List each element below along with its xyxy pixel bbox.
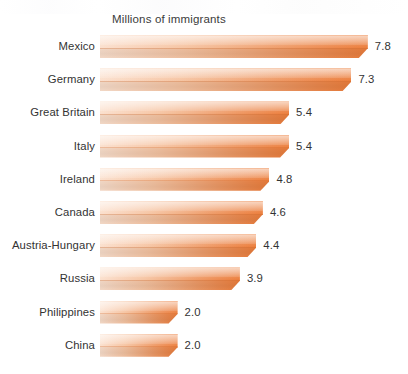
bar-face <box>100 168 269 191</box>
scan-bleed-through <box>0 0 408 14</box>
bar <box>100 201 263 224</box>
category-label: Italy <box>0 135 95 158</box>
bar <box>100 234 256 257</box>
category-label: China <box>0 334 95 357</box>
bar-row: Ireland4.8 <box>0 168 408 191</box>
category-label: Canada <box>0 201 95 224</box>
plot-area: Mexico7.8Germany7.3Great Britain5.4Italy… <box>0 33 408 368</box>
bar <box>100 101 289 124</box>
bar-row: China2.0 <box>0 334 408 357</box>
bar-row: Austria-Hungary4.4 <box>0 234 408 257</box>
chart-title: Millions of immigrants <box>112 13 226 25</box>
category-label: Austria-Hungary <box>0 234 95 257</box>
bar-face <box>100 201 263 224</box>
value-label: 7.8 <box>375 35 391 58</box>
bar-face <box>100 68 351 91</box>
value-label: 4.8 <box>276 168 292 191</box>
bar-row: Philippines2.0 <box>0 301 408 324</box>
value-label: 5.4 <box>296 135 312 158</box>
category-label: Germany <box>0 68 95 91</box>
bar <box>100 68 351 91</box>
bar-face <box>100 135 289 158</box>
bar-face <box>100 234 256 257</box>
bar <box>100 35 368 58</box>
bar <box>100 168 269 191</box>
bar-row: Mexico7.8 <box>0 35 408 58</box>
bar-face <box>100 334 178 357</box>
value-label: 2.0 <box>185 334 201 357</box>
value-label: 5.4 <box>296 101 312 124</box>
category-label: Ireland <box>0 168 95 191</box>
bar-row: Great Britain5.4 <box>0 101 408 124</box>
bar-row: Germany7.3 <box>0 68 408 91</box>
value-label: 3.9 <box>247 267 263 290</box>
category-label: Russia <box>0 267 95 290</box>
bar <box>100 334 178 357</box>
bar <box>100 301 178 324</box>
bar <box>100 135 289 158</box>
bar-row: Russia3.9 <box>0 267 408 290</box>
category-label: Philippines <box>0 301 95 324</box>
bar <box>100 267 240 290</box>
bar-face <box>100 35 368 58</box>
value-label: 2.0 <box>185 301 201 324</box>
immigrants-bar-chart: Millions of immigrants Mexico7.8Germany7… <box>0 0 408 374</box>
bar-face <box>100 301 178 324</box>
value-label: 4.4 <box>263 234 279 257</box>
category-label: Great Britain <box>0 101 95 124</box>
value-label: 4.6 <box>270 201 286 224</box>
bar-face <box>100 267 240 290</box>
category-label: Mexico <box>0 35 95 58</box>
bar-face <box>100 101 289 124</box>
bar-row: Canada4.6 <box>0 201 408 224</box>
value-label: 7.3 <box>358 68 374 91</box>
bar-row: Italy5.4 <box>0 135 408 158</box>
